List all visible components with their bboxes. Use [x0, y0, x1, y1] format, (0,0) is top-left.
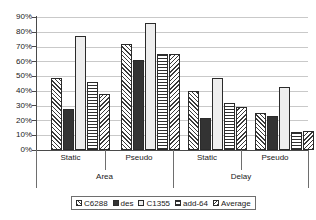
legend-label: des [121, 199, 134, 208]
bar-c1355 [212, 78, 223, 150]
bar-des [267, 116, 278, 150]
bar-c6288 [51, 78, 62, 150]
bar-c6288 [188, 91, 199, 150]
legend-swatch-average-icon [213, 200, 219, 206]
bar-average [303, 131, 314, 150]
y-tick-label: 70% [2, 43, 32, 51]
y-tick-label: 50% [2, 72, 32, 80]
legend-label: C6288 [84, 199, 108, 208]
bar-add-64 [157, 54, 168, 150]
y-tick-label: 20% [2, 117, 32, 125]
bar-des [200, 118, 211, 151]
x-category-label-static-area: Static [36, 153, 105, 163]
bar-c1355 [145, 23, 156, 150]
bar-group-delay-static [188, 17, 248, 150]
bar-group-area-static [51, 17, 111, 150]
bar-average [99, 94, 110, 150]
y-tick-label: 10% [2, 131, 32, 139]
bar-add-64 [87, 82, 98, 150]
x-supergroup-label-delay: Delay [173, 172, 309, 182]
y-tick-label: 80% [2, 28, 32, 36]
bar-des [63, 109, 74, 150]
legend-item-c1355: C1355 [138, 199, 170, 208]
legend-swatch-c1355-icon [138, 200, 144, 206]
bar-average [236, 107, 247, 150]
bar-c6288 [121, 44, 132, 150]
legend-swatch-des-icon [113, 200, 119, 206]
legend-label: C1355 [146, 199, 170, 208]
legend-label: add-64 [183, 199, 208, 208]
bar-add-64 [291, 132, 302, 150]
x-category-label-static-delay: Static [173, 153, 241, 163]
bar-chart: 90% 80% 70% 60% 50% 40% 30% 20% 10% 0% [0, 0, 316, 220]
legend-item-c6288: C6288 [76, 199, 108, 208]
x-category-label-pseudo-area: Pseudo [105, 153, 173, 163]
legend-item-add-64: add-64 [175, 199, 208, 208]
legend-item-des: des [113, 199, 134, 208]
chart-legend: C6288 des C1355 add-64 Average [71, 196, 256, 210]
x-supergroup-label-area: Area [36, 172, 173, 182]
bar-c1355 [279, 87, 290, 151]
legend-swatch-c6288-icon [76, 200, 82, 206]
y-tick-label: 30% [2, 102, 32, 110]
y-tick-label: 40% [2, 87, 32, 95]
bar-c1355 [75, 36, 86, 150]
bar-add-64 [224, 103, 235, 150]
bars-layer [36, 17, 308, 150]
legend-swatch-add-64-icon [175, 200, 181, 206]
x-category-label-pseudo-delay: Pseudo [241, 153, 309, 163]
legend-label: Average [221, 199, 251, 208]
bar-group-area-pseudo [121, 17, 181, 150]
y-tick-label: 0% [2, 146, 32, 154]
bar-average [169, 54, 180, 150]
y-tick-label: 90% [2, 13, 32, 21]
y-tick-label: 60% [2, 58, 32, 66]
bar-group-delay-pseudo [255, 17, 315, 150]
bar-c6288 [255, 113, 266, 150]
legend-item-average: Average [213, 199, 251, 208]
bar-des [133, 60, 144, 150]
